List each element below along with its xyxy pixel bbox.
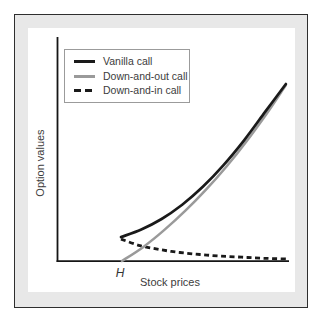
solid-gray-line-swatch-icon [73,74,96,79]
legend-label-vanilla-call: Vanilla call [103,56,152,67]
legend-item-down-and-out-call: Down-and-out call [73,71,185,82]
legend-item-down-and-in-call: Down-and-in call [73,85,185,96]
legend-label-down-and-out-call: Down-and-out call [103,71,188,82]
dashed-black-line-swatch-icon [73,88,96,93]
barrier-h-label: H [112,266,128,280]
down-and-in-call-curve [121,239,287,259]
y-axis-title: Option values [34,103,50,223]
legend: Vanilla call Down-and-out call Down-and-… [64,49,190,103]
legend-label-down-and-in-call: Down-and-in call [103,85,181,96]
down-and-out-call-curve [122,85,286,261]
solid-black-line-swatch-icon [73,59,96,64]
x-axis-title: Stock prices [120,276,220,288]
vanilla-call-curve [121,84,286,237]
legend-item-vanilla-call: Vanilla call [73,56,185,67]
figure-canvas: Vanilla call Down-and-out call Down-and-… [0,0,325,325]
